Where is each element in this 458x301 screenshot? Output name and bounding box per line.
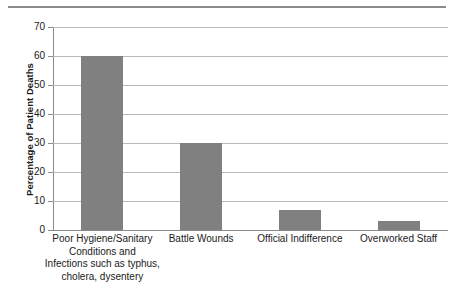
y-tick-mark-40 <box>48 114 53 115</box>
x-axis-label-line: Infections such as typhus, <box>28 258 176 271</box>
y-tick-mark-10 <box>48 201 53 202</box>
x-axis-category-labels: Poor Hygiene/SanitaryConditions andInfec… <box>53 233 448 301</box>
gridline-70 <box>53 27 448 28</box>
x-axis-label-line: Conditions and <box>28 246 176 259</box>
y-tick-mark-0 <box>48 230 53 231</box>
bar <box>81 56 123 230</box>
bar <box>279 210 321 230</box>
top-divider-rule <box>8 6 446 8</box>
x-axis-label-line: Overworked Staff <box>325 233 458 246</box>
y-tick-mark-30 <box>48 143 53 144</box>
y-tick-mark-60 <box>48 56 53 57</box>
gridline-0 <box>53 230 448 231</box>
bar <box>378 221 420 230</box>
y-tick-mark-70 <box>48 27 53 28</box>
y-tick-label-70: 70 <box>3 22 45 32</box>
y-tick-label-20: 20 <box>3 167 45 177</box>
plot-area <box>53 27 448 230</box>
bar <box>180 143 222 230</box>
x-axis-label: Overworked Staff <box>325 233 458 246</box>
x-axis-label-line: cholera, dysentery <box>28 271 176 284</box>
y-tick-label-10: 10 <box>3 196 45 206</box>
y-tick-label-60: 60 <box>3 51 45 61</box>
y-tick-mark-50 <box>48 85 53 86</box>
y-tick-label-40: 40 <box>3 109 45 119</box>
y-tick-mark-20 <box>48 172 53 173</box>
y-tick-label-50: 50 <box>3 80 45 90</box>
y-tick-label-30: 30 <box>3 138 45 148</box>
bar-chart-figure: Percentage of Patient Deaths 01020304050… <box>0 0 458 301</box>
